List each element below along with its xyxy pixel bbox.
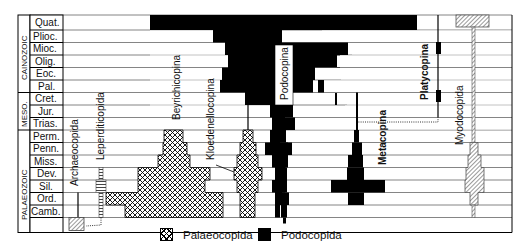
- period-jur: Jur.: [38, 106, 54, 117]
- label-platycopina: Platycopina: [419, 43, 430, 100]
- period-camb: Camb.: [31, 206, 60, 217]
- period-ord: Ord.: [37, 193, 56, 204]
- era-cainozoic: CAINOZOIC: [20, 35, 29, 80]
- period-dev: Dev.: [37, 168, 57, 179]
- label-leperditicopida: Leperditicopida: [95, 92, 106, 160]
- legend-label-palaeocopida: Palaeocopida: [183, 229, 253, 241]
- period-olig: Olig.: [35, 56, 56, 67]
- crosshatch-swatch-icon: [160, 228, 173, 241]
- period-perm: Perm.: [33, 131, 60, 142]
- label-beyrichicopina: Beyrichicopina: [171, 55, 182, 120]
- era-palaeozoic: PALAEOZOIC: [20, 169, 29, 220]
- period-eoc: Eoc.: [36, 68, 56, 79]
- label-archaeocopida: Archaeocopida: [69, 119, 80, 186]
- kloedenellocopina-range: [234, 130, 262, 218]
- period-plioc: Plioc.: [33, 31, 57, 42]
- period-pal: Pal.: [38, 81, 55, 92]
- label-myodocopida: Myodocopida: [454, 85, 465, 145]
- period-miss: Miss.: [34, 156, 57, 167]
- era-meso: MESO.: [20, 101, 29, 127]
- period-mioc: Mioc.: [33, 43, 57, 54]
- legend-podocopida: Podocopida: [258, 228, 342, 241]
- period-penn: Penn.: [33, 143, 59, 154]
- period-cret: Cret.: [35, 93, 57, 104]
- ostracod-range-chart: Podocopina Beyrichicopina Kloedenellocop…: [0, 0, 513, 248]
- period-quat: Quat.: [35, 17, 59, 28]
- legend-label-podocopida: Podocopida: [281, 229, 342, 241]
- label-kloedenellocopina: Kloedenellocopina: [205, 78, 216, 160]
- archaeocopida-range: [69, 193, 84, 231]
- legend-palaeocopida: Palaeocopida: [160, 228, 253, 241]
- label-podocopina: Podocopina: [279, 47, 290, 100]
- solid-swatch-icon: [258, 228, 271, 241]
- period-trias: Trias.: [33, 118, 58, 129]
- period-sil: Sil.: [39, 181, 53, 192]
- label-metacopina: Metacopina: [377, 110, 388, 165]
